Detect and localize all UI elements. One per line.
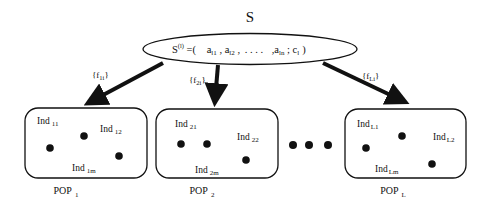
individual-dot: [46, 144, 54, 152]
arrow-label-L: {fLi}: [362, 71, 379, 82]
population-label-2: POP2: [190, 185, 215, 199]
arrow-to-pop-2: [215, 65, 218, 100]
individual-dot: [362, 144, 370, 152]
individual-label: Ind2m: [195, 165, 219, 177]
individual-dot: [80, 132, 88, 140]
population-diagram: S S(l) =( al1 , al2 , . . . . ,aln ; cl)…: [0, 0, 488, 207]
individual-dot: [115, 152, 123, 160]
individual-label: IndLm: [375, 164, 399, 176]
individual-label: Ind22: [237, 132, 259, 144]
arrow-to-pop-L: [323, 63, 403, 101]
individual-label: Ind12: [100, 124, 122, 136]
individual-label: Ind1m: [72, 163, 96, 175]
ellipsis-dots: [289, 141, 332, 149]
population-label-L: POPL: [380, 185, 406, 199]
root-title: S: [246, 9, 254, 25]
individual-label: Ind21: [175, 119, 197, 131]
population-box-2: Ind21 Ind22 Ind2m: [156, 109, 278, 178]
arrow-label-2: {f2i}: [189, 75, 206, 86]
population-label-1: POP1: [54, 185, 79, 199]
root-formula: S(l) =( al1 , al2 , . . . . ,aln ; cl): [172, 42, 306, 57]
individual-dot: [398, 132, 406, 140]
individual-dot: [242, 156, 250, 164]
population-box-L: IndL1 IndL2 IndLm: [345, 109, 466, 178]
individual-label: IndL2: [433, 132, 455, 144]
individual-dot: [428, 160, 436, 168]
individual-label: Ind11: [37, 116, 59, 128]
individual-label: IndL1: [357, 119, 379, 131]
arrow-label-1: {f1i}: [92, 70, 109, 81]
population-box-1: Ind11 Ind12 Ind1m: [25, 108, 147, 178]
individual-dot: [203, 140, 211, 148]
individual-dot: [177, 140, 185, 148]
arrow-to-pop-1: [90, 63, 163, 102]
